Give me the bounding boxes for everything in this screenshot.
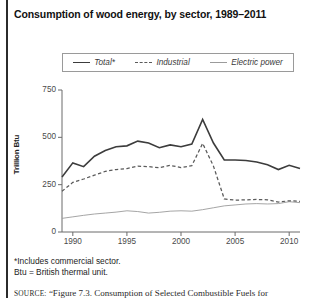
y-axis-title: Trillion Btu bbox=[12, 125, 21, 185]
chart-legend: Total* Industrial Electric power bbox=[62, 53, 294, 72]
legend-line-total-icon bbox=[73, 60, 90, 66]
source-note: SOURCE: “Figure 7.3. Consumption of Sele… bbox=[14, 288, 310, 298]
data-line-total bbox=[62, 119, 300, 177]
chart-page: Consumption of wood energy, by sector, 1… bbox=[0, 0, 318, 298]
footnote-btu-definition: Btu = British thermal unit. bbox=[14, 267, 304, 278]
data-line-industrial bbox=[62, 143, 300, 202]
legend-label-industrial: Industrial bbox=[156, 58, 189, 67]
x-tick-label-2000: 2000 bbox=[164, 237, 198, 246]
chart-footnotes: *Includes commercial sector. Btu = Briti… bbox=[14, 256, 304, 278]
x-tick-label-1990: 1990 bbox=[56, 237, 90, 246]
page-title: Consumption of wood energy, by sector, 1… bbox=[14, 8, 310, 20]
footnote-includes-commercial: *Includes commercial sector. bbox=[14, 256, 304, 267]
legend-item-industrial: Industrial bbox=[135, 58, 189, 67]
x-axis-ticks bbox=[73, 232, 289, 236]
legend-line-electric-power-icon bbox=[210, 60, 227, 66]
legend-item-total: Total* bbox=[73, 58, 115, 67]
data-line-electric-power bbox=[62, 202, 300, 219]
x-tick-label-2005: 2005 bbox=[218, 237, 252, 246]
source-prefix: SOURCE: bbox=[14, 289, 47, 298]
x-tick-label-1995: 1995 bbox=[110, 237, 144, 246]
y-axis-ticks bbox=[58, 90, 62, 232]
y-tick-label-250: 250 bbox=[30, 180, 56, 189]
chart-plot-area bbox=[0, 0, 318, 298]
legend-item-electric-power: Electric power bbox=[210, 58, 282, 67]
y-tick-label-500: 500 bbox=[30, 132, 56, 141]
left-border-rule bbox=[6, 0, 8, 298]
x-tick-label-2010: 2010 bbox=[272, 237, 306, 246]
source-text: “Figure 7.3. Consumption of Selected Com… bbox=[49, 288, 268, 298]
y-tick-label-0: 0 bbox=[30, 227, 56, 236]
legend-label-electric-power: Electric power bbox=[231, 58, 282, 67]
y-tick-label-750: 750 bbox=[30, 85, 56, 94]
legend-line-industrial-icon bbox=[135, 60, 152, 66]
legend-label-total: Total* bbox=[94, 58, 115, 67]
